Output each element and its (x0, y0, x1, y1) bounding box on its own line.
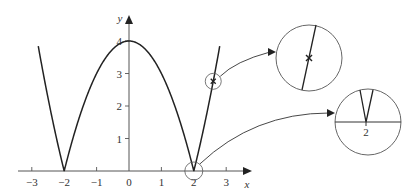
x-tick-label: 2 (191, 176, 197, 188)
magnify-arrow-corner (200, 113, 329, 164)
x-axis-arrow-icon (243, 167, 252, 175)
x-tick-label: −1 (91, 176, 103, 188)
y-ticks: 1234 (117, 35, 130, 145)
arrowhead-icon (268, 48, 276, 56)
diagram-canvas: x y −3−2−10123 1234 2 (0, 0, 416, 196)
y-tick-label: 1 (117, 133, 123, 145)
x-tick-label: 3 (223, 176, 229, 188)
magnified-v-corner (360, 90, 373, 122)
smooth-point-highlight (205, 25, 342, 91)
x-ticks: −3−2−10123 (26, 167, 230, 188)
y-tick-label: 3 (117, 68, 123, 80)
x-tick-label: 0 (126, 176, 132, 188)
y-tick-label: 2 (117, 100, 123, 112)
x-tick-label: −2 (58, 176, 70, 188)
arrowhead-icon (327, 109, 335, 117)
y-axis-label: y (117, 12, 123, 24)
magnified-tick-label: 2 (363, 126, 369, 138)
axes: x y (18, 12, 252, 190)
x-tick-label: −3 (26, 176, 38, 188)
x-tick-label: 1 (159, 176, 165, 188)
y-axis-arrow-icon (125, 15, 133, 24)
magnify-arrow-smooth (220, 52, 270, 76)
corner-point-highlight: 2 (185, 89, 401, 180)
x-axis-label: x (244, 178, 250, 190)
